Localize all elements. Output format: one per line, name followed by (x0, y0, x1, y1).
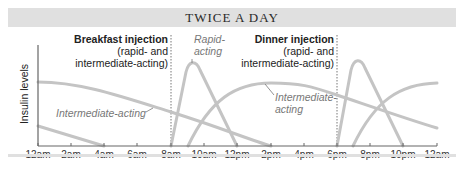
breakfast-injection-sub1: (rapid- and (70, 45, 168, 57)
intermediate-acting-label-right-2: acting (275, 103, 303, 115)
dinner-injection-title: Dinner injection (236, 33, 334, 45)
rapid-acting-label-2: acting (194, 45, 222, 57)
breakfast-injection-sub2: intermediate-acting) (50, 57, 168, 69)
dinner-injection-sub1: (rapid- and (236, 45, 334, 57)
rapid-acting-label-1: Rapid- (194, 33, 225, 45)
y-axis-label: Insulin levels (18, 59, 30, 129)
intermediate-left-pointer (146, 108, 153, 112)
rapid-curve-dinner (337, 61, 403, 146)
intermediate-right-pointer (265, 84, 274, 95)
bottom-divider (8, 154, 456, 157)
intermediate-acting-label-left: Intermediate-acting (56, 107, 146, 119)
intermediate-acting-label-right-1: Intermediate- (275, 91, 337, 103)
rapid-curve-breakfast (171, 63, 237, 146)
breakfast-injection-title: Breakfast injection (70, 33, 168, 45)
dinner-injection-sub2: intermediate-acting) (214, 57, 334, 69)
